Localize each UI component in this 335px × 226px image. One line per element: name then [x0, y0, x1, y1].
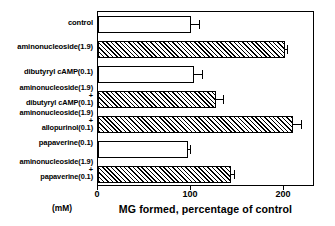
category-label-control: control: [0, 19, 93, 27]
xtick-label-0: 0: [82, 189, 112, 199]
bar-6: [98, 166, 231, 184]
error-bar-line-3: [216, 99, 223, 100]
bar-1: [98, 41, 285, 59]
bar-2: [98, 66, 194, 84]
x-axis-title: MG formed, percentage of control: [97, 203, 314, 215]
bar-5: [98, 141, 188, 159]
error-bar-cap-3: [223, 95, 224, 104]
error-bar-cap-6: [234, 170, 235, 179]
error-bar-cap-5: [190, 145, 191, 154]
category-label-amino-plus-camp: aminonucleoside(1.9) + dibutyryl cAMP(0.…: [0, 84, 93, 107]
category-label-dibutyryl-camp: dibutyryl cAMP(0.1): [0, 68, 93, 76]
xtick-label-100: 100: [175, 189, 205, 199]
category-label-column: control aminonucleoside(1.9) dibutyryl c…: [0, 11, 93, 186]
error-bar-cap-0: [199, 20, 200, 29]
bar-4: [98, 116, 293, 134]
category-label-amino-plus-allopurinol: aminonucleoside(1.9) + allopurinol(0.1): [0, 109, 93, 132]
category-label-amino-plus-papaverine: aminonucleoside(1.9) + papaverine(0.1): [0, 158, 93, 181]
xtick-label-200: 200: [268, 189, 298, 199]
error-bar-line-4: [293, 124, 301, 125]
error-bar-line-0: [191, 24, 198, 25]
error-bar-cap-1: [287, 45, 288, 54]
error-bar-line-2: [194, 74, 202, 75]
error-bar-cap-2: [202, 70, 203, 79]
bar-3: [98, 91, 216, 109]
error-bar-cap-4: [301, 120, 302, 129]
category-label-papaverine: papaverine(0.1): [0, 139, 93, 147]
unit-label: (mM): [52, 203, 72, 213]
category-label-aminonucleoside: aminonucleoside(1.9): [0, 43, 93, 51]
bar-0: [98, 16, 191, 34]
bar-chart: control aminonucleoside(1.9) dibutyryl c…: [0, 0, 335, 226]
plot-area: [97, 11, 314, 186]
